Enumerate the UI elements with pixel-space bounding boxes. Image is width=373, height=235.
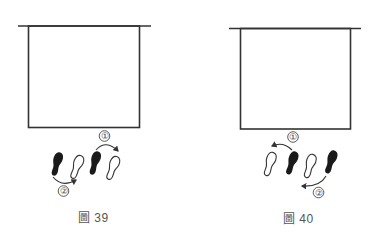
right-foot-black-icon	[284, 150, 300, 176]
left-foot-black-icon	[88, 150, 102, 175]
step-1-arrow-icon	[96, 145, 118, 151]
right-foot-black-icon	[323, 149, 339, 175]
table-rectangle	[29, 26, 140, 128]
right-foot-outline-icon	[105, 155, 121, 181]
right-foot-outline-icon	[69, 154, 85, 180]
diagram-canvas: ① ② ① ②	[0, 0, 373, 235]
left-foot-black-icon	[50, 151, 64, 176]
left-foot-outline-icon	[263, 151, 278, 177]
figure-40: ① ②	[229, 29, 361, 198]
step-1-arrow-icon	[272, 144, 292, 150]
left-foot-outline-icon	[303, 153, 318, 179]
step-2-label: ②	[315, 188, 323, 198]
figure-39-caption: 圖 39	[78, 208, 109, 225]
step-2-label: ②	[60, 186, 68, 196]
table-rectangle	[241, 29, 351, 130]
figure-39: ① ②	[18, 26, 151, 196]
step-1-label: ①	[101, 131, 109, 141]
step-1-label: ①	[289, 132, 297, 142]
figure-40-caption: 圖 40	[283, 209, 314, 226]
